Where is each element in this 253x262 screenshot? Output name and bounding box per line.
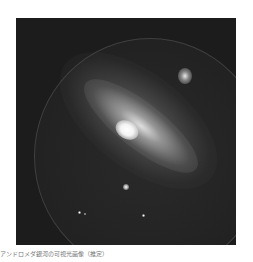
star-small [142, 214, 145, 217]
star-small [84, 213, 86, 215]
foreground-star [123, 184, 129, 190]
image-caption: アンドロメダ銀河の可視光画像（推定） [0, 250, 253, 258]
galaxy-image [16, 18, 236, 245]
companion-galaxy [178, 68, 192, 84]
star-small [78, 211, 81, 214]
